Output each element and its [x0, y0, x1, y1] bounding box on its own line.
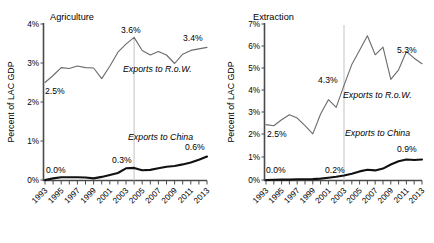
- x-tick-label: 1999: [79, 186, 99, 206]
- y-tick-label: 6%: [248, 42, 260, 51]
- x-tick-label: 2013: [192, 186, 212, 206]
- series-label-china: Exports to China: [128, 132, 193, 142]
- annotation-row-start: 2.5%: [267, 129, 287, 139]
- y-axis-label: Percent of LAC GDP: [6, 61, 16, 142]
- x-tick-label: 1997: [63, 186, 83, 206]
- annotation-row-peak: 3.6%: [121, 25, 141, 35]
- chart-panel-agriculture: Percent of LAC GDP Agriculture 4% 3% 2% …: [0, 0, 217, 243]
- series-label-row: Exports to R.o.W.: [343, 90, 412, 100]
- annotation-row-mid: 4.3%: [318, 75, 338, 85]
- x-tick-label: 2005: [127, 186, 147, 206]
- series-label-china: Exports to China: [345, 128, 410, 138]
- x-tick-label: 1993: [251, 186, 271, 206]
- agriculture-svg: Percent of LAC GDP Agriculture 4% 3% 2% …: [0, 0, 217, 243]
- x-tick-label: 1995: [46, 186, 66, 206]
- x-tick-label: 2009: [376, 186, 396, 206]
- x-tick-label: 2011: [392, 186, 411, 205]
- y-tick-label: 2%: [248, 130, 260, 139]
- x-tick-label: 1995: [267, 186, 287, 206]
- y-tick-label: 3%: [27, 59, 39, 68]
- x-tick-label: 2007: [360, 186, 380, 206]
- x-tick-label: 2003: [329, 186, 349, 206]
- y-tick-label: 0%: [27, 176, 39, 185]
- x-tick-label: 1993: [30, 186, 50, 206]
- x-tick-label: 2005: [345, 186, 365, 206]
- x-tick-marks: [45, 181, 207, 185]
- y-tick-label: 7%: [248, 20, 260, 29]
- chart-panel-extraction: Percent of LAC GDP Extraction 7% 6% 5% 4…: [217, 0, 434, 243]
- annotation-china-start: 0.0%: [46, 165, 66, 175]
- x-tick-marks: [266, 181, 422, 185]
- y-tick-label: 4%: [248, 86, 260, 95]
- x-tick-label: 2009: [160, 186, 180, 206]
- y-tick-label: 1%: [27, 137, 39, 146]
- x-tick-label: 2011: [176, 186, 195, 205]
- y-axis-label: Percent of LAC GDP: [226, 61, 236, 142]
- x-tick-label: 1997: [282, 186, 302, 206]
- y-tick-label: 4%: [27, 20, 39, 29]
- annotation-row-start: 2.5%: [45, 86, 65, 96]
- panel-title: Agriculture: [50, 12, 94, 22]
- annotation-china-end: 0.9%: [397, 144, 417, 154]
- series-label-row: Exports to R.o.W.: [123, 64, 192, 74]
- annotation-china-mid: 0.2%: [325, 165, 345, 175]
- y-tick-label: 2%: [27, 98, 39, 107]
- x-tick-label: 2001: [95, 186, 115, 206]
- figure-root: Percent of LAC GDP Agriculture 4% 3% 2% …: [0, 0, 434, 243]
- y-tick-label: 1%: [248, 153, 260, 162]
- annotation-row-end: 3.4%: [183, 33, 203, 43]
- annotation-china-mid: 0.3%: [112, 155, 132, 165]
- series-line-row: [45, 37, 207, 82]
- x-tick-label: 2013: [407, 186, 427, 206]
- x-tick-label: 1999: [298, 186, 318, 206]
- y-tick-label: 3%: [248, 108, 260, 117]
- y-tick-label: 5%: [248, 64, 260, 73]
- annotation-row-end: 5.3%: [397, 45, 417, 55]
- y-tick-label: 0%: [248, 176, 260, 185]
- extraction-svg: Percent of LAC GDP Extraction 7% 6% 5% 4…: [217, 0, 434, 243]
- x-tick-label: 2003: [111, 186, 131, 206]
- annotation-china-end: 0.6%: [185, 142, 205, 152]
- annotation-china-start: 0.0%: [266, 165, 286, 175]
- x-tick-label: 2007: [144, 186, 164, 206]
- x-tick-label: 2001: [314, 186, 334, 206]
